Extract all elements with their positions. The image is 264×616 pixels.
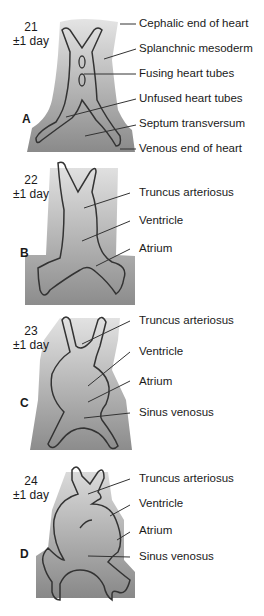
label-truncus-arteriosus: Truncus arteriosus (139, 186, 234, 198)
age-range: ±1 day (6, 34, 56, 48)
label-septum-transversum: Septum transversum (139, 117, 245, 129)
label-ventricle: Ventricle (139, 345, 183, 357)
label-ventricle: Ventricle (139, 497, 183, 509)
panel-a-age: 21 ±1 day (6, 20, 56, 48)
age-day: 23 (6, 324, 56, 338)
age-range: ±1 day (6, 187, 56, 201)
label-fusing-heart-tubes: Fusing heart tubes (139, 67, 234, 79)
age-day: 22 (6, 173, 56, 187)
age-range: ±1 day (6, 488, 56, 502)
label-splanchnic-mesoderm: Splanchnic mesoderm (139, 42, 253, 54)
age-day: 21 (6, 20, 56, 34)
panel-d-letter: D (20, 547, 29, 561)
panel-c-letter: C (20, 396, 29, 410)
label-cephalic-end: Cephalic end of heart (139, 17, 248, 29)
panel-b-letter: B (20, 246, 29, 260)
age-day: 24 (6, 474, 56, 488)
panel-a-letter: A (22, 112, 31, 126)
label-atrium: Atrium (139, 524, 172, 536)
label-atrium: Atrium (139, 242, 172, 254)
label-atrium: Atrium (139, 375, 172, 387)
label-ventricle: Ventricle (139, 214, 183, 226)
label-truncus-arteriosus: Truncus arteriosus (139, 314, 234, 326)
label-unfused-heart-tubes: Unfused heart tubes (139, 92, 243, 104)
panel-d-age: 24 ±1 day (6, 474, 56, 502)
panel-b-age: 22 ±1 day (6, 173, 56, 201)
label-sinus-venosus: Sinus venosus (139, 550, 214, 562)
age-range: ±1 day (6, 338, 56, 352)
panel-c-age: 23 ±1 day (6, 324, 56, 352)
label-venous-end: Venous end of heart (139, 142, 242, 154)
label-truncus-arteriosus: Truncus arteriosus (139, 472, 234, 484)
label-sinus-venosus: Sinus venosus (139, 406, 214, 418)
